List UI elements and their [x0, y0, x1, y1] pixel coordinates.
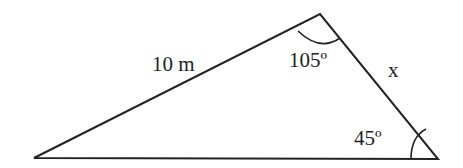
side-label-10m: 10 m	[152, 52, 195, 76]
side-label-x: x	[388, 58, 399, 82]
angle-label-right: 45º	[354, 126, 382, 150]
angle-arc-top	[298, 31, 340, 44]
angle-label-top: 105º	[289, 48, 328, 72]
triangle-diagram: 10 m 105º x 45º	[0, 0, 463, 168]
